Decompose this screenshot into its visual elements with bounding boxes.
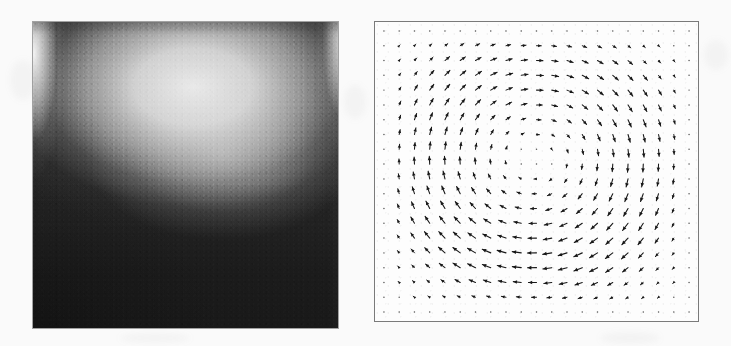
vector-node-dot [383,297,384,298]
vector-arrow-head [642,44,645,47]
vector-arrow-head [672,151,675,154]
vector-node-dot [673,30,674,31]
vector-arrow-head [672,252,675,255]
vector-arrow-head [397,45,400,48]
vector-node-dot [688,104,689,105]
vector-node-dot [383,252,384,253]
vector-arrow-head [626,168,630,172]
velocity-vector-panel [374,21,699,322]
vector-node-dot [383,149,384,150]
vector-node-dot [383,30,384,31]
vector-arrow-head [428,142,432,146]
vector-arrow-head [612,138,615,142]
vector-arrow-head [398,159,401,162]
vector-arrow-head [443,156,447,160]
vector-arrow-head [414,58,417,61]
vector-node-dot [566,30,567,31]
vector-arrow-head [514,221,518,225]
vector-node-dot [688,89,689,90]
vector-node-dot [688,134,689,135]
vector-arrow-head [413,157,417,161]
scan-artifact [120,333,190,343]
vector-arrow-head [642,296,645,299]
vector-arrow-head [575,282,579,285]
magnitude-scan-grain [33,22,338,328]
vector-node-dot [566,311,567,312]
vector-node-dot [688,149,689,150]
vector-arrow-head [642,153,646,157]
vector-arrow-head [658,137,661,141]
vector-node-dot [398,311,399,312]
vector-arrow-head [427,171,431,175]
vector-node-dot [475,30,476,31]
vector-node-dot [551,311,552,312]
vector-arrow-head [428,296,431,299]
vector-node-dot [490,311,491,312]
vector-arrow-head [398,130,401,134]
vector-arrow-head [570,75,574,78]
vector-node-dot [597,30,598,31]
vector-arrow-head [540,88,544,91]
vector-node-dot [688,237,689,238]
vector-node-dot [414,30,415,31]
vector-arrow-head [532,192,535,195]
vector-arrow-head [549,178,552,181]
vector-node-dot [673,311,674,312]
vector-arrow-head [534,177,537,180]
vector-arrow-head [413,142,416,146]
vector-node-dot [444,311,445,312]
vector-node-dot [505,311,506,312]
vector-node-dot [520,30,521,31]
vector-node-dot [475,311,476,312]
vector-arrow-head [505,146,508,149]
vector-arrow-head [498,235,502,239]
vector-arrow-head [657,281,660,284]
vector-node-dot [444,30,445,31]
vector-node-dot [429,311,430,312]
vector-arrow-head [539,103,542,106]
vector-node-dot [398,297,399,298]
vector-node-dot [536,30,537,31]
vector-arrow-head [539,59,543,62]
vector-arrow-head [524,88,528,91]
vector-node-dot [551,163,552,164]
vector-arrow-head [555,74,559,77]
vector-node-dot [612,311,613,312]
vector-node-dot [582,30,583,31]
vector-node-dot [383,104,384,105]
vector-node-dot [536,311,537,312]
vector-arrow-head [658,60,661,63]
vector-arrow-head [581,151,584,155]
vector-arrow-head [543,237,547,241]
vector-arrow-head [529,222,533,226]
vector-node-dot [597,311,598,312]
vector-arrow-head [657,295,660,298]
vector-node-dot [383,75,384,76]
vector-node-dot [688,208,689,209]
vector-arrow-head [398,266,401,269]
vector-arrow-head [528,266,532,270]
vector-node-dot [520,163,521,164]
vector-node-dot [688,223,689,224]
vector-node-dot [536,149,537,150]
vector-node-dot [383,89,384,90]
vector-arrow-head [672,166,675,169]
vector-node-dot [688,297,689,298]
vector-node-dot [688,252,689,253]
vector-arrow-head [428,156,432,160]
vector-arrow-head [458,157,462,161]
vector-arrow-head [673,136,676,140]
vector-node-dot [383,282,384,283]
vector-arrow-head [413,44,416,47]
vector-node-dot [658,311,659,312]
vector-arrow-head [641,183,645,187]
vector-node-dot [383,134,384,135]
velocity-magnitude-panel [33,22,338,328]
vector-node-dot [658,30,659,31]
vector-arrow-head [672,59,675,62]
vector-arrow-head [398,73,401,76]
vector-node-dot [643,30,644,31]
vector-node-dot [490,30,491,31]
vector-arrow-head [413,296,416,299]
vector-arrow-head [528,236,532,240]
